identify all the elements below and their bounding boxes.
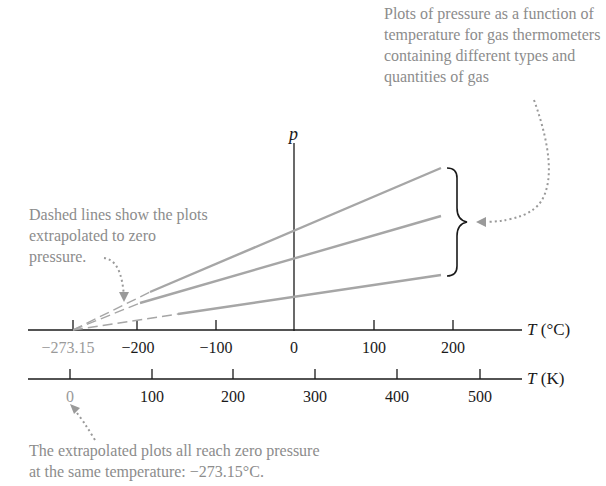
kelvin-ticks bbox=[70, 369, 480, 379]
celsius-ticks bbox=[73, 320, 453, 330]
arrow-to-brace bbox=[487, 100, 549, 222]
celsius-tick-label: 100 bbox=[362, 339, 386, 357]
celsius-tick-label: −273.15 bbox=[41, 339, 94, 357]
celsius-tick-label: −200 bbox=[121, 339, 154, 357]
brace bbox=[447, 168, 467, 276]
annotation-zero-pressure: The extrapolated plots all reach zero pr… bbox=[29, 440, 320, 482]
celsius-tick-label: 200 bbox=[441, 339, 465, 357]
celsius-tick-label: −100 bbox=[199, 339, 232, 357]
annotation-dashed-lines: Dashed lines show the plots extrapolated… bbox=[29, 204, 208, 267]
celsius-tick-label: 0 bbox=[290, 339, 298, 357]
kelvin-tick-label: 500 bbox=[468, 388, 492, 406]
kelvin-tick-label: 0 bbox=[66, 388, 74, 406]
kelvin-tick-label: 400 bbox=[385, 388, 409, 406]
kelvin-axis-label: T (K) bbox=[527, 369, 564, 389]
kelvin-tick-label: 100 bbox=[140, 388, 164, 406]
kelvin-tick-label: 200 bbox=[221, 388, 245, 406]
arrow-to-zero-kelvin bbox=[73, 408, 95, 440]
celsius-axis-label: T (°C) bbox=[527, 320, 570, 340]
annotation-plots-of-pressure: Plots of pressure as a function of tempe… bbox=[384, 3, 600, 87]
p-axis-label: p bbox=[289, 124, 298, 145]
kelvin-tick-label: 300 bbox=[303, 388, 327, 406]
